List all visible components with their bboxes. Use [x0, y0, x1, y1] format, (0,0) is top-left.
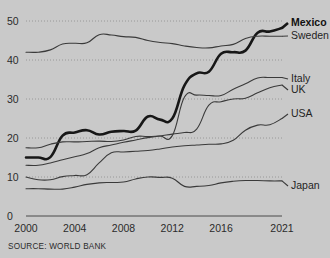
y-tick-label: 10	[7, 171, 19, 183]
legend-leader-lines	[282, 23, 288, 186]
series-line-sweden	[26, 34, 282, 53]
y-tick-label: 40	[7, 54, 19, 66]
line-chart-figure: 01020304050 200020042008201220162021 Mex…	[0, 0, 330, 258]
x-axis-tick-labels: 200020042008201220162021	[14, 222, 294, 234]
y-tick-label: 20	[7, 132, 19, 144]
legend-label-japan[interactable]: Japan	[291, 179, 320, 191]
series-line-uk	[26, 85, 282, 166]
x-tick-label: 2016	[209, 222, 233, 234]
chart-container: 01020304050 200020042008201220162021 Mex…	[0, 0, 330, 258]
x-tick-label: 2012	[161, 222, 185, 234]
series-line-usa	[26, 119, 282, 181]
leader-line-italy	[282, 78, 288, 79]
legend-labels-group: MexicoSwedenItalyUKUSAJapan	[291, 16, 329, 191]
leader-line-usa	[282, 114, 288, 119]
legend-label-uk[interactable]: UK	[291, 83, 306, 95]
leader-line-uk	[282, 85, 288, 90]
source-note: SOURCE: WORLD BANK	[8, 242, 107, 251]
leader-line-japan	[282, 181, 288, 186]
series-lines-group	[26, 28, 282, 189]
series-line-mexico	[26, 28, 282, 159]
x-tick-label: 2004	[63, 222, 87, 234]
y-tick-label: 30	[7, 93, 19, 105]
legend-label-sweden[interactable]: Sweden	[291, 29, 329, 41]
x-tick-label: 2000	[14, 222, 38, 234]
leader-line-mexico	[282, 23, 288, 28]
legend-label-mexico[interactable]: Mexico	[291, 16, 327, 28]
y-tick-label: 0	[7, 210, 13, 222]
x-tick-label: 2008	[112, 222, 136, 234]
y-tick-label: 50	[7, 15, 19, 27]
series-line-italy	[26, 77, 282, 148]
y-axis-tick-labels: 01020304050	[7, 15, 19, 222]
legend-label-usa[interactable]: USA	[291, 107, 313, 119]
series-line-japan	[26, 177, 282, 189]
x-tick-label: 2021	[270, 222, 294, 234]
